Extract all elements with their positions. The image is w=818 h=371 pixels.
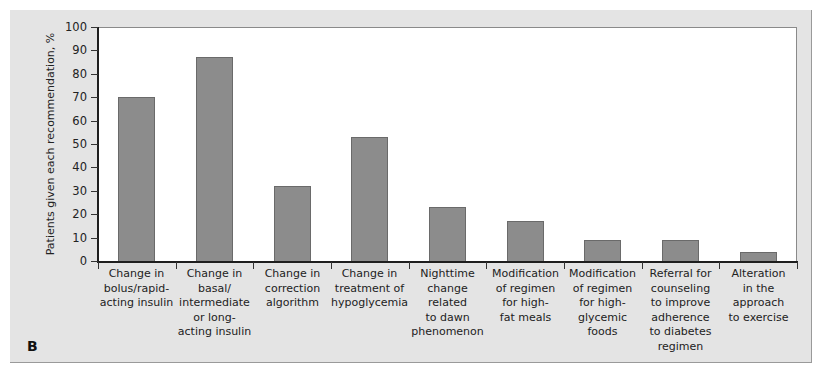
y-tick [91,121,98,122]
y-tick-label: 80 [57,68,87,80]
x-tick [797,262,798,269]
y-tick [91,144,98,145]
y-tick-label: 90 [57,44,87,56]
y-tick [91,50,98,51]
x-tick-label: Change in bolus/rapid- acting insulin [98,267,175,311]
y-tick [91,167,98,168]
y-axis [97,27,99,263]
y-tick-label: 0 [57,255,87,267]
y-tick-label: 100 [57,21,87,33]
y-tick [91,97,98,98]
bar [274,186,311,261]
x-tick-label: Change in treatment of hypoglycemia [331,267,408,311]
bar [584,240,621,261]
y-tick-label: 40 [57,161,87,173]
y-tick-label: 20 [57,208,87,220]
bar [429,207,466,261]
y-tick-label: 60 [57,115,87,127]
y-tick [91,191,98,192]
y-tick [91,238,98,239]
y-tick-label: 50 [57,138,87,150]
bar [507,221,544,261]
bar [351,137,388,261]
y-axis-label: Patients given each recommendation, % [44,33,57,256]
x-axis [97,261,798,263]
x-tick-label: Nighttime change related to dawn phenome… [409,267,486,340]
bar [118,97,155,261]
x-tick-label: Change in basal/ intermediate or long- a… [176,267,253,340]
y-tick-label: 70 [57,91,87,103]
x-tick-label: Alteration in the approach to exercise [720,267,797,325]
bar [740,252,777,261]
bar [662,240,699,261]
x-tick-label: Referral for counseling to improve adher… [642,267,719,354]
y-tick [91,214,98,215]
y-tick-label: 30 [57,185,87,197]
y-tick [91,261,98,262]
x-tick-label: Modification of regimen for high- fat me… [487,267,564,325]
bar [196,57,233,261]
y-tick [91,74,98,75]
x-tick-label: Modification of regimen for high- glycem… [564,267,641,340]
y-tick [91,27,98,28]
y-tick-label: 10 [57,232,87,244]
x-tick-label: Change in correction algorithm [254,267,331,311]
panel-letter: B [27,338,38,354]
